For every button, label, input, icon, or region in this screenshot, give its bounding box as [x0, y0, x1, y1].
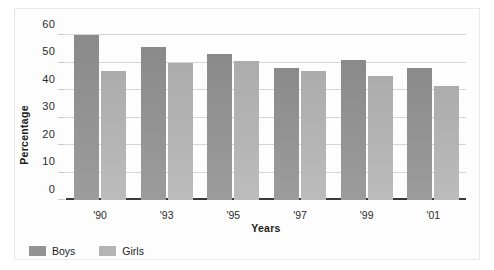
bar-girls — [434, 86, 459, 200]
x-axis-tick-label: '90 — [74, 209, 126, 221]
y-axis-tick-label: 10 — [42, 155, 55, 167]
x-axis-tick-label: '95 — [207, 209, 259, 221]
bar-girls — [368, 76, 393, 200]
x-axis-tick-label: '99 — [341, 209, 393, 221]
bar-group: '95 — [207, 35, 259, 200]
x-axis-tick-label: '93 — [141, 209, 193, 221]
bar-group: '01 — [407, 35, 459, 200]
y-axis-tick-label: 40 — [42, 73, 55, 85]
y-axis-tick — [58, 199, 65, 200]
y-axis-title: Percentage — [18, 105, 30, 165]
chart-legend: BoysGirls — [29, 245, 144, 257]
plot-area: 6050403020100 '90'93'95'97'99'01 — [66, 35, 466, 200]
bar-boys — [274, 68, 299, 200]
bar-boys — [341, 60, 366, 200]
legend-swatch-icon — [29, 246, 46, 256]
y-axis-tick — [58, 62, 65, 63]
y-axis-tick-label: 20 — [42, 128, 55, 140]
bar-boys — [74, 35, 99, 200]
gridline — [66, 144, 466, 145]
legend-swatch-icon — [99, 246, 116, 256]
y-axis-tick — [58, 89, 65, 90]
y-axis-tick — [58, 117, 65, 118]
bar-boys — [207, 54, 232, 200]
gridline — [66, 62, 466, 63]
bar-girls — [234, 61, 259, 200]
gridline — [66, 117, 466, 118]
legend-label: Boys — [52, 245, 75, 257]
x-axis-title: Years — [66, 222, 466, 234]
y-axis-tick — [58, 144, 65, 145]
bar-girls — [101, 71, 126, 200]
legend-item-girls: Girls — [99, 245, 144, 257]
legend-label: Girls — [122, 245, 144, 257]
y-axis-tick — [58, 172, 65, 173]
bar-girls — [301, 71, 326, 200]
bar-group: '93 — [141, 35, 193, 200]
bar-group: '90 — [74, 35, 126, 200]
x-axis-tick-label: '01 — [407, 209, 459, 221]
y-axis-tick-label: 60 — [42, 18, 55, 30]
legend-item-boys: Boys — [29, 245, 75, 257]
bar-boys — [141, 47, 166, 200]
y-axis-tick-label: 50 — [42, 45, 55, 57]
gridline — [66, 89, 466, 90]
axis-baseline — [66, 198, 466, 200]
chart-figure: Percentage 6050403020100 '90'93'95'97'99… — [0, 0, 494, 270]
y-axis-tick-label: 30 — [42, 100, 55, 112]
gridline — [66, 34, 466, 35]
bar-group: '97 — [274, 35, 326, 200]
y-axis-tick-label: 0 — [49, 183, 55, 195]
bar-group: '99 — [341, 35, 393, 200]
gridline — [66, 172, 466, 173]
bar-boys — [407, 68, 432, 200]
bar-girls — [168, 63, 193, 201]
x-axis-tick-label: '97 — [274, 209, 326, 221]
y-axis-tick — [58, 34, 65, 35]
